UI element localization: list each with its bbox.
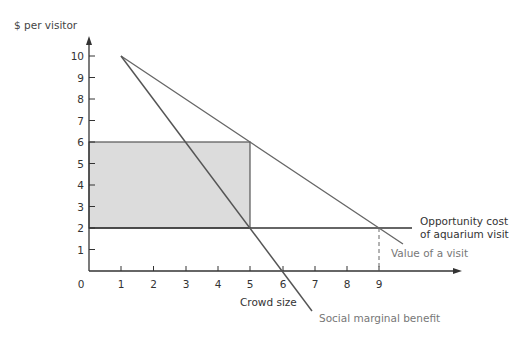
x-ticks [121,266,379,271]
social-marginal-benefit-label: Social marginal benefit [319,312,440,324]
y-tick-label: 8 [77,93,84,105]
shaded-region [89,142,250,228]
x-axis-arrow-icon [453,268,462,274]
x-axis-label: Crowd size [240,296,297,308]
y-tick-label: 6 [77,136,84,148]
x-tick-label: 4 [215,278,222,290]
y-axis-arrow-icon [86,36,92,45]
y-tick-label: 3 [77,201,84,213]
y-tick-label: 1 [77,244,84,256]
y-tick-label: 2 [77,222,84,234]
y-tick-label: 7 [77,115,84,127]
y-tick-label: 9 [77,72,84,84]
chart-svg: 1 2 3 4 5 6 7 8 9 10 0 1 2 3 4 5 6 7 8 9 [0,0,530,344]
y-tick-label: 4 [77,179,84,191]
x-tick-label: 7 [312,278,319,290]
x-tick-label: 5 [247,278,254,290]
x-tick-label: 2 [150,278,157,290]
value-of-visit-label: Value of a visit [391,247,468,259]
opportunity-cost-label-line1: Opportunity cost [420,215,508,227]
x-tick-label: 6 [280,278,287,290]
x-tick-label: 9 [376,278,383,290]
y-tick-label: 5 [77,158,84,170]
y-axis-label: $ per visitor [14,19,78,31]
opportunity-cost-label-line2: of aquarium visit [420,228,509,240]
x-tick-label: 1 [118,278,125,290]
chart-canvas: 1 2 3 4 5 6 7 8 9 10 0 1 2 3 4 5 6 7 8 9 [0,0,530,344]
y-tick-label: 10 [71,50,84,62]
x-tick-label: 8 [344,278,351,290]
x-tick-label: 0 [78,278,85,290]
x-tick-label: 3 [183,278,190,290]
